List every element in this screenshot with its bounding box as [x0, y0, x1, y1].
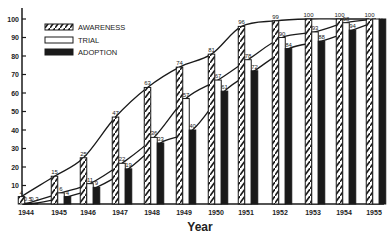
y-tick-label: 100 — [7, 16, 19, 23]
value-label: 94 — [349, 23, 356, 29]
y-tick-label: 80 — [11, 53, 19, 60]
x-tick-label: 1948 — [144, 209, 160, 216]
value-label: 6 — [59, 186, 63, 192]
y-tick-label: 50 — [11, 108, 19, 115]
legend-label-trial: TRIAL — [78, 36, 99, 45]
bar-awareness — [80, 158, 87, 204]
value-label: 81 — [208, 47, 215, 53]
trend-curves — [19, 19, 382, 204]
value-label: 99 — [272, 14, 279, 20]
x-axis-title: Year — [187, 220, 213, 234]
bar-trial — [312, 32, 319, 204]
bar-awareness — [366, 19, 373, 204]
bar-awareness — [272, 21, 279, 204]
y-tick-label: 90 — [11, 34, 19, 41]
value-label: 67 — [215, 73, 222, 79]
legend-swatch-awareness — [45, 24, 73, 30]
value-label: 25 — [80, 151, 87, 157]
bar-adoption — [318, 41, 325, 204]
bar-adoption — [285, 49, 292, 204]
value-label: 19 — [125, 162, 132, 168]
value-label: 15 — [51, 169, 58, 175]
legend: AWARENESS TRIAL ADOPTION — [45, 23, 125, 57]
bar-trial — [245, 60, 252, 204]
bar-adoption — [31, 203, 38, 204]
value-label: 11 — [87, 177, 94, 183]
bar-adoption — [64, 197, 71, 204]
bar-awareness — [305, 19, 312, 204]
x-tick-label: 1946 — [80, 209, 96, 216]
value-label: 100 — [364, 12, 375, 18]
value-label: 96 — [238, 19, 245, 25]
y-tick-label: 20 — [11, 164, 19, 171]
x-tick-label: 1951 — [238, 209, 254, 216]
bar-trial — [343, 23, 350, 204]
y-tick-label: 30 — [11, 145, 19, 152]
value-label: 74 — [176, 60, 183, 66]
bar-trial — [119, 163, 126, 204]
y-tick-label: 70 — [11, 71, 19, 78]
legend-swatch-adoption — [45, 49, 73, 55]
bar-trial — [151, 137, 158, 204]
bar-trial — [87, 184, 94, 204]
bar-trial — [25, 203, 32, 204]
x-tick-label: 1953 — [305, 209, 321, 216]
value-label: 72 — [251, 64, 258, 70]
bar-adoption — [189, 130, 196, 204]
bar-trial — [279, 38, 286, 205]
bar-trial — [58, 193, 65, 204]
bar-adoption — [379, 19, 386, 204]
y-tick-label: 40 — [11, 127, 19, 134]
value-label: 98 — [343, 16, 350, 22]
value-label: 33 — [157, 136, 164, 142]
bar-adoption — [93, 187, 100, 204]
bar-adoption — [157, 143, 164, 204]
value-label: 93 — [312, 25, 319, 31]
value-label: 84 — [285, 42, 292, 48]
adoption-chart: 102030405060708090100 194419451946194719… — [0, 0, 391, 239]
y-tick-label: 60 — [11, 90, 19, 97]
bar-adoption — [125, 169, 132, 204]
bar-trial — [215, 80, 222, 204]
y-axis: 102030405060708090100 — [7, 8, 26, 204]
bar-adoption — [221, 91, 228, 204]
y-tick-label: 10 — [11, 182, 19, 189]
value-label: 40 — [189, 123, 196, 129]
bar-adoption — [349, 30, 356, 204]
x-axis: 1944194519461947194819491950195119521953… — [18, 204, 384, 216]
bar-awareness — [176, 67, 183, 204]
value-label: 90 — [279, 31, 286, 37]
legend-label-awareness: AWARENESS — [78, 23, 125, 32]
x-tick-label: 1949 — [176, 209, 192, 216]
value-label: 61 — [221, 84, 228, 90]
value-label: 78 — [245, 53, 252, 59]
value-label: 47 — [112, 110, 119, 116]
value-label: 100 — [303, 12, 314, 18]
value-label: 57 — [183, 92, 190, 98]
legend-swatch-trial — [45, 37, 73, 43]
x-tick-label: 1955 — [366, 209, 382, 216]
value-label: 9 — [95, 180, 99, 186]
bar-trial — [373, 19, 380, 204]
value-label: 63 — [144, 80, 151, 86]
x-tick-label: 1944 — [18, 209, 34, 216]
x-tick-label: 1947 — [112, 209, 128, 216]
bar-awareness — [144, 87, 151, 204]
x-tick-label: 1950 — [208, 209, 224, 216]
bar-adoption — [251, 71, 258, 204]
value-label: 0.3 — [30, 196, 39, 202]
curve-adoption — [23, 19, 383, 204]
legend-label-adoption: ADOPTION — [78, 48, 117, 57]
x-tick-label: 1954 — [336, 209, 352, 216]
bar-awareness — [336, 19, 343, 204]
bars — [18, 19, 386, 204]
bar-trial — [183, 99, 190, 204]
x-tick-label: 1945 — [51, 209, 67, 216]
value-label: 88 — [318, 34, 325, 40]
bar-awareness — [51, 176, 58, 204]
x-tick-label: 1952 — [272, 209, 288, 216]
